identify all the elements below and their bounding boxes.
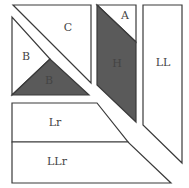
- piece-c-label: C: [64, 21, 72, 34]
- quilt-pieces-diagram: C B B A H LL Lr LLr: [0, 0, 189, 188]
- piece-llr-label: LLr: [47, 155, 68, 168]
- piece-b-light-label: B: [22, 50, 30, 63]
- piece-lr-label: Lr: [49, 116, 62, 129]
- piece-llr: LLr: [12, 142, 171, 183]
- piece-ll: LL: [143, 5, 182, 163]
- piece-a-label: A: [120, 9, 130, 22]
- piece-h-label: H: [112, 57, 122, 70]
- piece-ll-label: LL: [156, 56, 171, 69]
- piece-lr: Lr: [12, 103, 128, 142]
- piece-b-dark-label: B: [45, 74, 53, 87]
